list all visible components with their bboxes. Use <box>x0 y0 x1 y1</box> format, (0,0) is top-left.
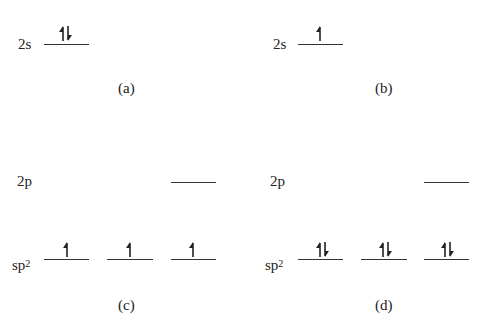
orbital-line-sp2-2 <box>107 259 153 260</box>
spin-up-icon <box>315 26 327 42</box>
spin-up-icon <box>62 242 74 258</box>
level-label-2s: 2s <box>18 37 31 52</box>
spin-pair-icon <box>378 242 398 258</box>
spin-pair-icon <box>440 242 460 258</box>
spin-up-icon <box>125 242 137 258</box>
level-label-2s: 2s <box>273 37 286 52</box>
orbital-line-sp2-2 <box>361 259 407 260</box>
orbital-line-sp2-1 <box>298 259 343 260</box>
level-label-2p: 2p <box>17 174 32 189</box>
orbital-line-sp2-3 <box>171 259 216 260</box>
level-label-sp2: sp2 <box>12 258 30 273</box>
caption-b: (b) <box>375 81 393 96</box>
spin-pair-icon <box>58 26 78 42</box>
orbital-line-2s <box>298 44 343 45</box>
orbital-line-sp2-3 <box>424 259 469 260</box>
level-label-sp2: sp2 <box>265 258 283 273</box>
spin-up-icon <box>188 242 200 258</box>
superscript: 2 <box>25 258 30 269</box>
orbital-line-sp2-1 <box>44 259 89 260</box>
caption-a: (a) <box>118 81 135 96</box>
level-label-2p: 2p <box>270 174 285 189</box>
superscript: 2 <box>278 258 283 269</box>
caption-c: (c) <box>118 298 135 313</box>
orbital-line-2p <box>171 182 216 183</box>
spin-pair-icon <box>315 242 335 258</box>
orbital-line-2p <box>424 182 469 183</box>
orbital-line-2s <box>44 44 89 45</box>
caption-d: (d) <box>375 298 393 313</box>
